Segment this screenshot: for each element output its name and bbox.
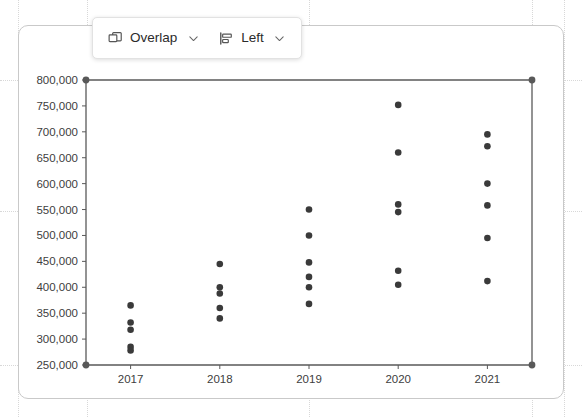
- data-point[interactable]: [306, 284, 313, 291]
- data-point[interactable]: [395, 149, 402, 156]
- y-axis-tick-label: 500,000: [0, 229, 78, 241]
- data-point[interactable]: [484, 180, 491, 187]
- data-point[interactable]: [217, 315, 224, 322]
- page-guide-vertical: [564, 0, 565, 417]
- data-point[interactable]: [306, 232, 313, 239]
- data-point[interactable]: [395, 102, 402, 109]
- y-axis-tick-label: 400,000: [0, 281, 78, 293]
- data-point[interactable]: [127, 319, 134, 326]
- y-axis-tick-label: 450,000: [0, 255, 78, 267]
- data-point[interactable]: [484, 278, 491, 285]
- overlap-dropdown[interactable]: Overlap: [105, 27, 202, 49]
- data-point[interactable]: [306, 274, 313, 281]
- data-point[interactable]: [217, 261, 224, 268]
- x-axis-tick-label: 2021: [475, 373, 501, 385]
- align-label: Left: [241, 31, 264, 45]
- x-axis-tick-label: 2020: [385, 373, 411, 385]
- x-axis-tick-label: 2018: [207, 373, 233, 385]
- overlap-icon: [107, 30, 123, 46]
- data-point[interactable]: [127, 347, 134, 354]
- data-point[interactable]: [217, 284, 224, 291]
- x-axis-tick-label: 2019: [296, 373, 322, 385]
- overlap-label: Overlap: [130, 31, 177, 45]
- data-point[interactable]: [484, 235, 491, 242]
- y-axis-tick-label: 550,000: [0, 204, 78, 216]
- data-point[interactable]: [306, 301, 313, 308]
- chevron-down-icon[interactable]: [273, 31, 287, 45]
- data-point[interactable]: [395, 201, 402, 208]
- align-dropdown[interactable]: Left: [216, 27, 289, 49]
- y-axis-tick-label: 650,000: [0, 152, 78, 164]
- data-point[interactable]: [395, 267, 402, 274]
- data-point[interactable]: [484, 143, 491, 150]
- align-left-icon: [218, 30, 234, 46]
- y-axis-tick-label: 350,000: [0, 307, 78, 319]
- y-axis-tick-label: 250,000: [0, 359, 78, 371]
- chart-card: [18, 25, 564, 399]
- y-axis-tick-label: 700,000: [0, 126, 78, 138]
- y-axis-tick-label: 600,000: [0, 178, 78, 190]
- data-point[interactable]: [395, 281, 402, 288]
- data-point[interactable]: [217, 305, 224, 312]
- data-point[interactable]: [484, 202, 491, 209]
- y-axis-tick-label: 300,000: [0, 333, 78, 345]
- data-point[interactable]: [127, 302, 134, 309]
- data-point[interactable]: [306, 206, 313, 213]
- data-point[interactable]: [217, 290, 224, 297]
- y-axis-tick-label: 750,000: [0, 100, 78, 112]
- data-point[interactable]: [127, 327, 134, 334]
- data-point[interactable]: [484, 131, 491, 138]
- data-point[interactable]: [306, 259, 313, 266]
- x-axis-tick-label: 2017: [118, 373, 144, 385]
- data-point[interactable]: [395, 209, 402, 216]
- y-axis-tick-label: 800,000: [0, 74, 78, 86]
- chevron-down-icon[interactable]: [186, 31, 200, 45]
- chart-options-toolbar: Overlap Left: [92, 17, 302, 59]
